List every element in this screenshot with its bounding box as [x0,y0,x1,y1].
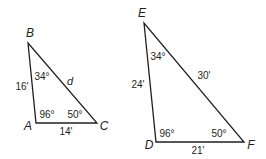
angle-e-measure: 34° [150,52,165,62]
angle-c-measure: 50° [67,110,82,120]
vertex-label-f: F [247,139,254,151]
angle-f-measure: 50° [211,129,226,139]
vertex-label-a: A [24,120,32,132]
side-ac-length: 14' [59,127,72,137]
triangle-def [144,23,244,142]
side-bc-variable: d [67,76,73,87]
angle-a-measure: 96° [39,110,54,120]
angle-d-measure: 96° [159,129,174,139]
angle-b-measure: 34° [34,72,49,82]
vertex-label-c: C [100,120,109,132]
triangle-abc [28,43,97,123]
side-df-length: 21' [191,146,204,156]
side-de-length: 24' [131,80,144,90]
vertex-label-d: D [145,139,154,151]
similar-triangles-diagram: B A C 34° 96° 50° 16' 14' d E D F 34° 96… [0,0,266,159]
vertex-label-b: B [26,27,34,39]
side-ab-length: 16' [15,82,28,92]
side-ef-length: 30' [197,71,210,81]
vertex-label-e: E [138,7,146,19]
